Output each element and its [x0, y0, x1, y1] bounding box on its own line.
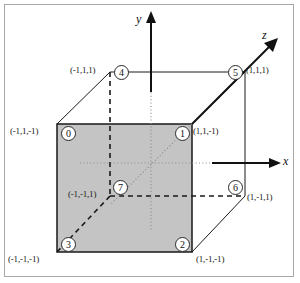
y-axis-label: y: [136, 12, 141, 27]
diagram-canvas: [0, 0, 300, 283]
vertex-badge-5: 5: [228, 65, 243, 80]
vertex-coords-1: (1,1,-1): [193, 126, 218, 136]
vertex-coords-0: (-1,1,-1): [10, 126, 38, 136]
vertex-badge-3: 3: [61, 237, 76, 252]
vertex-badge-0: 0: [61, 126, 76, 141]
vertex-badge-1: 1: [175, 126, 190, 141]
vertex-badge-6: 6: [228, 180, 243, 195]
vertex-coords-2: (1,-1,-1): [196, 254, 224, 264]
edge-0-4: [57, 72, 110, 124]
x-axis-arrowhead: [269, 158, 281, 168]
edge-2-6: [192, 196, 245, 252]
vertex-coords-7: (-1,-1,1): [68, 189, 96, 199]
vertex-badge-4: 4: [114, 65, 129, 80]
vertex-badge-7: 7: [113, 180, 128, 195]
vertex-badge-2: 2: [175, 237, 190, 252]
z-axis-line: [192, 45, 271, 124]
y-axis-arrowhead: [146, 11, 156, 23]
vertex-coords-4: (-1,1,1): [70, 65, 95, 75]
cube-vertex-diagram: y z x 0 1 2 3 4 5 6 7 (-1,1,-1) (1,1,-1)…: [0, 0, 300, 283]
vertex-coords-5: (1,1,1): [246, 65, 269, 75]
vertex-coords-6: (1,-1,1): [247, 192, 272, 202]
vertex-coords-3: (-1,-1,-1): [8, 254, 39, 264]
z-axis-label: z: [262, 28, 267, 43]
x-axis-label: x: [283, 154, 288, 169]
